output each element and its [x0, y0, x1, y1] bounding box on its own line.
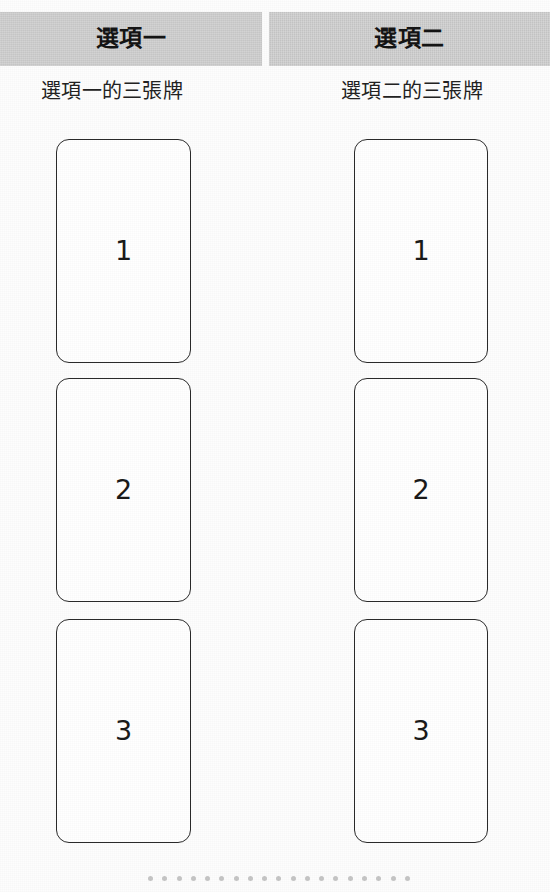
- pagination-dot[interactable]: [205, 876, 210, 881]
- card-number: 1: [115, 237, 132, 264]
- card-number: 2: [412, 476, 429, 503]
- card-number: 3: [412, 717, 429, 744]
- pagination-dot[interactable]: [305, 876, 310, 881]
- pagination-dot[interactable]: [362, 876, 367, 881]
- card-number: 1: [412, 237, 429, 264]
- card[interactable]: 1: [354, 139, 488, 363]
- pagination-dot[interactable]: [248, 876, 253, 881]
- card-number: 3: [115, 717, 132, 744]
- pagination-dot[interactable]: [162, 876, 167, 881]
- pagination-dot[interactable]: [376, 876, 381, 881]
- pagination-dot[interactable]: [177, 876, 182, 881]
- page-canvas: 選項一 選項二 選項一的三張牌 選項二的三張牌 1 2 3 1 2 3: [0, 0, 550, 892]
- pagination-dot[interactable]: [148, 876, 153, 881]
- pagination-dot[interactable]: [276, 876, 281, 881]
- card[interactable]: 1: [56, 139, 191, 363]
- pagination-dot[interactable]: [333, 876, 338, 881]
- card[interactable]: 2: [56, 378, 191, 602]
- pagination-dot[interactable]: [319, 876, 324, 881]
- card-number: 2: [115, 476, 132, 503]
- pagination-dots[interactable]: [148, 871, 410, 885]
- pagination-dot[interactable]: [234, 876, 239, 881]
- card[interactable]: 2: [354, 378, 488, 602]
- card[interactable]: 3: [56, 619, 191, 843]
- card-column-two: 1 2 3: [354, 0, 494, 892]
- pagination-dot[interactable]: [405, 876, 410, 881]
- pagination-dot[interactable]: [191, 876, 196, 881]
- pagination-dot[interactable]: [219, 876, 224, 881]
- pagination-dot[interactable]: [391, 876, 396, 881]
- pagination-dot[interactable]: [262, 876, 267, 881]
- card[interactable]: 3: [354, 619, 488, 843]
- pagination-dot[interactable]: [291, 876, 296, 881]
- card-column-one: 1 2 3: [56, 0, 196, 892]
- pagination-dot[interactable]: [348, 876, 353, 881]
